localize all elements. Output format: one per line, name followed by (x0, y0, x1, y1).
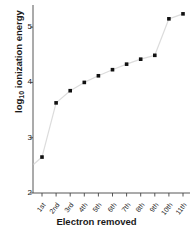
data-point-marker (83, 81, 87, 85)
data-point-marker (54, 101, 58, 105)
data-line (34, 14, 183, 164)
data-point-marker (125, 62, 129, 66)
data-point-marker (167, 17, 171, 21)
data-point-marker (153, 54, 157, 58)
data-point-marker (181, 12, 185, 16)
data-point-marker (68, 89, 72, 93)
data-point-marker (139, 57, 143, 61)
ionization-energy-chart: log10 ionization energy 2345 1st2nd3rd4t… (0, 0, 193, 234)
axis-lines (33, 5, 190, 193)
plot-area (0, 0, 193, 234)
data-point-marker (97, 74, 101, 78)
x-axis-label: Electron removed (0, 216, 193, 227)
data-point-marker (111, 68, 115, 72)
data-point-marker (40, 155, 44, 159)
